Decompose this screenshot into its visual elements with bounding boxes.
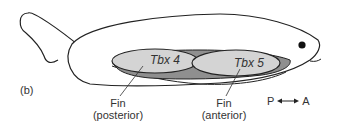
tbx5-label: Tbx 5 (234, 56, 264, 70)
panel-label: (b) (20, 84, 33, 96)
anterior-axis-label: A (302, 95, 309, 107)
tbx4-label: Tbx 4 (150, 53, 180, 67)
fin-anterior-label: Fin (anterior) (184, 97, 264, 121)
fin-posterior-line2: (posterior) (78, 109, 158, 121)
fin-posterior-line1: Fin (78, 97, 158, 109)
fin-posterior-label: Fin (posterior) (78, 97, 158, 121)
fin-anterior-line2: (anterior) (184, 109, 264, 121)
fish-fin-diagram: Tbx 4 Tbx 5 (b) Fin (posterior) Fin (ant… (0, 0, 344, 127)
posterior-axis-label: P (267, 95, 274, 107)
eye (298, 41, 305, 48)
pa-axis-indicator: P A (267, 95, 310, 107)
fin-anterior-line1: Fin (184, 97, 264, 109)
double-arrow-icon (277, 97, 299, 105)
